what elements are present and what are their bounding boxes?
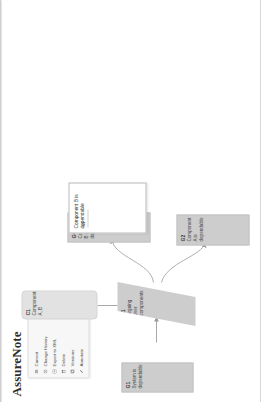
node-id: G2: [179, 234, 185, 241]
page-stage: AssureNote Current Change History Export: [0, 0, 261, 402]
node-text: Components A, B: [31, 294, 43, 315]
popup-bullet: • All: [81, 222, 86, 228]
gsn-node-g2[interactable]: G2 Component A is dependable: [176, 214, 249, 245]
gsn-node-g1[interactable]: G1 System is dependable: [121, 362, 193, 392]
gsn-diagram-canvas[interactable]: C1 Components A, B G1 System is dependab…: [1, 0, 260, 402]
node-detail-popup[interactable]: Component B is dependable • All: [68, 182, 146, 233]
node-id: G1: [124, 381, 130, 388]
link-s1-g4: [111, 238, 153, 282]
node-text: Arguing over components: [126, 292, 144, 315]
app-window: AssureNote Current Change History Export: [0, 0, 261, 402]
popup-divider: [87, 209, 88, 227]
gsn-node-c1[interactable]: C1 Components A, B: [21, 290, 97, 319]
node-text: Component A is dependable: [186, 218, 204, 241]
node-text: System is dependable: [131, 366, 143, 388]
link-s1-g2: [161, 242, 205, 282]
node-id: C1: [24, 309, 30, 315]
